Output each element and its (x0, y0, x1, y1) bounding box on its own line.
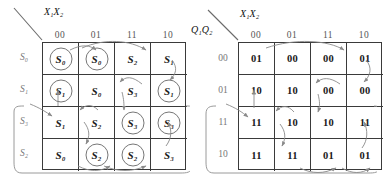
cell-value-r0c0: S₀ (56, 53, 66, 65)
cell-r2c2[interactable]: 10 (311, 107, 347, 139)
cell-value-r0c2: S₂ (128, 53, 138, 65)
cell-r2c1[interactable]: S₂ (79, 107, 115, 139)
cell-value-r2c0: 11 (251, 117, 262, 128)
cell-r1c0[interactable]: S₁ (43, 75, 79, 107)
cell-value-r0c3: 01 (359, 53, 370, 64)
cell-r0c3[interactable]: S₁ (151, 43, 187, 75)
cell-r1c1[interactable]: S₀ (79, 75, 115, 107)
column-axis-label: X₁X₂ (240, 8, 259, 19)
cell-value-r1c0: 10 (251, 85, 262, 96)
cell-r3c3[interactable]: 01 (347, 139, 383, 171)
column-header-0: 00 (42, 30, 78, 40)
cell-r0c0[interactable]: S₀ (43, 43, 79, 75)
row-header-1: 01 (212, 85, 234, 95)
cell-value-r2c0: S₁ (56, 117, 66, 129)
cell-value-r3c1: 11 (287, 150, 298, 161)
cell-value-r0c3: S₁ (164, 53, 174, 65)
row-header-3: S₂ (20, 148, 42, 158)
cell-r3c1[interactable]: S₂ (79, 139, 115, 171)
column-axis-label: X₁X₂ (44, 6, 63, 17)
row-header-2: S₃ (20, 116, 42, 126)
cell-r1c3[interactable]: S₁ (151, 75, 187, 107)
cell-value-r3c0: S₀ (56, 149, 66, 161)
row-header-0: S₀ (20, 52, 42, 62)
cell-value-r3c2: S₂ (128, 149, 138, 161)
column-header-3: 10 (346, 30, 382, 40)
cell-value-r1c3: 00 (359, 85, 370, 96)
cell-value-r3c3: S₃ (164, 149, 174, 161)
column-header-3: 10 (150, 30, 186, 40)
cell-value-r3c1: S₂ (92, 149, 102, 161)
cell-r2c2[interactable]: S₃ (115, 107, 151, 139)
cell-r0c2[interactable]: S₂ (115, 43, 151, 75)
state-grid-left: S₀ S₀ S₂ S₁ S₁ S₀ S₃ (42, 42, 186, 170)
row-header-3: 10 (212, 149, 234, 159)
cell-value-r0c1: S₀ (92, 53, 102, 65)
cell-r3c1[interactable]: 11 (275, 139, 311, 171)
cell-value-r3c2: 01 (323, 150, 334, 161)
cell-r2c1[interactable]: 10 (275, 107, 311, 139)
cell-r3c3[interactable]: S₃ (151, 139, 187, 171)
column-header-2: 11 (310, 30, 346, 40)
cell-value-r2c3: 11 (360, 117, 371, 128)
cell-r1c1[interactable]: 10 (275, 75, 311, 107)
cell-r0c0[interactable]: 01 (239, 43, 275, 75)
cell-value-r2c2: 10 (323, 117, 334, 128)
cell-value-r1c3: S₁ (164, 85, 174, 97)
row-axis-label: Q₁Q₂ (191, 24, 212, 35)
cell-r3c0[interactable]: S₀ (43, 139, 79, 171)
cell-r3c0[interactable]: 11 (239, 139, 275, 171)
cell-r2c3[interactable]: 11 (347, 107, 383, 139)
cell-value-r1c1: 10 (287, 85, 298, 96)
cell-r3c2[interactable]: 01 (311, 139, 347, 171)
column-header-1: 01 (78, 30, 114, 40)
cell-value-r2c1: S₂ (92, 117, 102, 129)
symbolic-state-map: X₁X₂ 00 01 11 10 S₀ S₁ S₃ S₂ S₀ S₀ S₂ (0, 0, 190, 178)
row-header-2: 11 (212, 117, 234, 127)
cell-value-r2c1: 10 (287, 117, 298, 128)
cell-value-r2c3: S₃ (164, 117, 174, 129)
cell-value-r1c0: S₁ (56, 85, 66, 97)
cell-value-r0c1: 00 (287, 53, 298, 64)
cell-r2c3[interactable]: S₃ (151, 107, 187, 139)
cell-value-r1c2: 00 (323, 85, 334, 96)
cell-r2c0[interactable]: 11 (239, 107, 275, 139)
cell-value-r1c2: S₃ (128, 85, 138, 97)
cell-r1c2[interactable]: 00 (311, 75, 347, 107)
cell-r1c2[interactable]: S₃ (115, 75, 151, 107)
cell-r3c2[interactable]: S₂ (115, 139, 151, 171)
column-header-1: 01 (274, 30, 310, 40)
cell-r0c2[interactable]: 00 (311, 43, 347, 75)
state-grid-right: 01 00 00 01 10 10 00 00 (238, 42, 382, 170)
cell-r2c0[interactable]: S₁ (43, 107, 79, 139)
cell-r0c3[interactable]: 01 (347, 43, 383, 75)
cell-r0c1[interactable]: S₀ (79, 43, 115, 75)
cell-r1c0[interactable]: 10 (239, 75, 275, 107)
encoded-state-map: X₁X₂ Q₁Q₂ 00 01 11 10 00 01 11 10 01 00 … (190, 0, 377, 178)
column-header-2: 11 (114, 30, 150, 40)
cell-r1c3[interactable]: 00 (347, 75, 383, 107)
row-header-1: S₁ (20, 84, 42, 94)
row-header-0: 00 (212, 53, 234, 63)
cell-value-r0c0: 01 (251, 53, 262, 64)
cell-r0c1[interactable]: 00 (275, 43, 311, 75)
cell-value-r3c0: 11 (251, 150, 262, 161)
cell-value-r2c2: S₃ (128, 117, 138, 129)
cell-value-r0c2: 00 (323, 53, 334, 64)
cell-value-r3c3: 01 (359, 150, 370, 161)
cell-value-r1c1: S₀ (92, 85, 102, 97)
column-header-0: 00 (238, 30, 274, 40)
